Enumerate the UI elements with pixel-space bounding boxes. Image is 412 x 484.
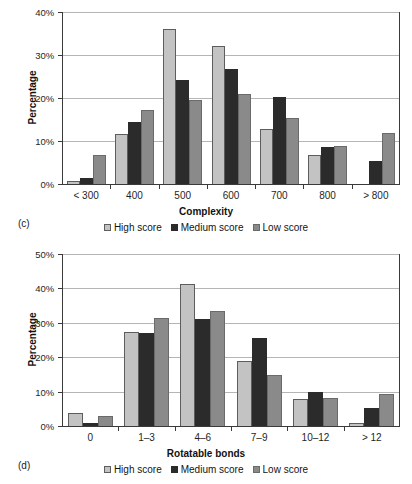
y-tick-label: 20% (0, 93, 54, 104)
x-tick-mark (110, 185, 111, 189)
bar-high-score-3 (212, 46, 225, 184)
y-axis-line (62, 12, 63, 184)
legend-item-high-score: High score (104, 222, 162, 233)
y-tick-label: 10% (0, 136, 54, 147)
x-tick-label: 800 (303, 190, 351, 201)
gridline (62, 254, 400, 255)
plot-area-rotatable-bonds (62, 254, 400, 426)
gridline (62, 357, 400, 358)
plot-area-complexity (62, 12, 400, 184)
x-tick-label: 700 (255, 190, 303, 201)
bar-high-score-5 (349, 423, 364, 426)
bar-high-score-0 (67, 181, 80, 184)
legend-item-low-score: Low score (253, 464, 309, 475)
bar-medium-score-3 (225, 69, 238, 184)
bar-low-score-0 (98, 416, 113, 426)
y-tick-label: 0% (0, 421, 54, 432)
legend-swatch-icon (104, 466, 111, 473)
x-tick-label: 0 (62, 432, 118, 443)
bar-high-score-0 (68, 413, 83, 426)
legend-d: High scoreMedium scoreLow score (0, 464, 412, 475)
legend-item-high-score: High score (104, 464, 162, 475)
x-tick-mark (118, 427, 119, 431)
bar-low-score-5 (379, 394, 394, 426)
bar-low-score-4 (323, 398, 338, 426)
bar-low-score-2 (210, 311, 225, 426)
x-tick-mark (231, 427, 232, 431)
x-tick-label: 10–12 (287, 432, 343, 443)
bar-medium-score-2 (195, 319, 210, 426)
plot-right-border (399, 254, 400, 426)
legend-item-low-score: Low score (253, 222, 309, 233)
bar-medium-score-6 (369, 161, 382, 184)
y-axis-line (62, 254, 63, 426)
legend-swatch-icon (171, 224, 178, 231)
x-tick-label: 7–9 (231, 432, 287, 443)
bar-low-score-4 (286, 118, 299, 184)
legend-swatch-icon (253, 466, 260, 473)
x-tick-mark (344, 427, 345, 431)
bar-medium-score-5 (321, 147, 334, 184)
bar-low-score-1 (154, 318, 169, 426)
x-tick-label: 500 (159, 190, 207, 201)
y-tick-label: 50% (0, 249, 54, 260)
x-tick-label: 4–6 (175, 432, 231, 443)
x-tick-label: > 800 (352, 190, 400, 201)
plot-right-border (399, 12, 400, 184)
y-tick-label: 0% (0, 179, 54, 190)
bar-medium-score-0 (83, 423, 98, 426)
bar-low-score-1 (141, 110, 154, 184)
legend-label: Low score (263, 464, 309, 475)
legend-label: High score (114, 464, 162, 475)
bar-medium-score-0 (80, 178, 93, 184)
bar-medium-score-1 (139, 333, 154, 426)
bar-low-score-6 (382, 133, 395, 184)
legend-label: Low score (263, 222, 309, 233)
x-tick-label: 600 (207, 190, 255, 201)
x-axis-title-c: Complexity (0, 206, 412, 217)
x-tick-mark (207, 185, 208, 189)
legend-swatch-icon (253, 224, 260, 231)
figure-panel-c: Percentage Complexity (c) High scoreMedi… (0, 0, 412, 242)
legend-label: Medium score (181, 464, 244, 475)
bar-medium-score-5 (364, 408, 379, 426)
bar-high-score-5 (308, 155, 321, 184)
x-axis-line (62, 184, 400, 185)
bar-low-score-0 (93, 155, 106, 184)
gridline (62, 323, 400, 324)
y-tick-label: 10% (0, 386, 54, 397)
legend-item-medium-score: Medium score (171, 222, 244, 233)
gridline (62, 55, 400, 56)
bar-high-score-2 (163, 29, 176, 184)
y-tick-label: 30% (0, 317, 54, 328)
bar-high-score-4 (260, 129, 273, 184)
x-axis-title-d: Rotatable bonds (0, 448, 412, 459)
bar-high-score-1 (124, 332, 139, 426)
bar-high-score-1 (115, 134, 128, 184)
bar-medium-score-3 (252, 338, 267, 426)
bar-medium-score-4 (273, 97, 286, 184)
legend-item-medium-score: Medium score (171, 464, 244, 475)
x-tick-label: 400 (110, 190, 158, 201)
y-tick-label: 40% (0, 7, 54, 18)
bar-high-score-4 (293, 399, 308, 426)
y-tick-label: 40% (0, 283, 54, 294)
bar-high-score-2 (180, 284, 195, 426)
x-tick-label: < 300 (62, 190, 110, 201)
bar-medium-score-4 (308, 392, 323, 426)
legend-swatch-icon (104, 224, 111, 231)
x-tick-label: 1–3 (118, 432, 174, 443)
bar-low-score-3 (238, 94, 251, 184)
x-tick-mark (175, 427, 176, 431)
y-axis-title-d: Percentage (27, 254, 38, 426)
bar-low-score-5 (334, 146, 347, 184)
x-tick-mark (303, 185, 304, 189)
gridline (62, 288, 400, 289)
legend-swatch-icon (171, 466, 178, 473)
figure-panel-d: Percentage Rotatable bonds (d) High scor… (0, 242, 412, 484)
legend-label: High score (114, 222, 162, 233)
bar-medium-score-1 (128, 122, 141, 184)
gridline (62, 12, 400, 13)
x-tick-mark (255, 185, 256, 189)
x-tick-mark (159, 185, 160, 189)
